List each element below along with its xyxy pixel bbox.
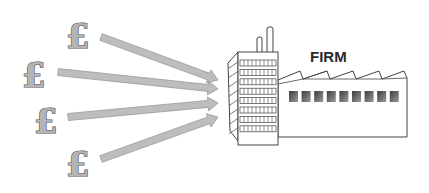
chimney-tall [267,27,273,53]
arrow-3 [68,97,218,121]
factory-hall [278,71,407,137]
factory-window [314,91,323,102]
tower-floor [240,88,276,94]
factory-window [365,91,374,102]
factory-window [289,91,298,102]
factory-window [339,91,348,102]
factory-window [302,91,311,102]
tower-floor [240,79,276,85]
factory-window [352,91,361,102]
arrow-4 [100,114,218,163]
pound-signs-group: ££££ [22,16,90,184]
factory-window [327,91,336,102]
tower-floor [240,98,276,104]
chimney-small [257,37,262,53]
pound-sign-icon: £ [66,16,90,56]
firm-label: FIRM [310,48,347,65]
tower-floor [240,69,276,75]
pound-sign-icon: £ [66,144,90,184]
tower-floor [240,126,276,132]
tower-floor [240,107,276,113]
tower-floor [240,60,276,66]
factory-window [390,91,399,102]
tower-floor [240,116,276,122]
pound-sign-icon: £ [22,55,46,95]
factory-window [377,91,386,102]
pound-sign-icon: £ [34,101,58,141]
money-to-firm-diagram: ££££ FIRM [0,0,429,193]
factory-building-icon [228,27,407,145]
factory-windows [289,91,399,102]
